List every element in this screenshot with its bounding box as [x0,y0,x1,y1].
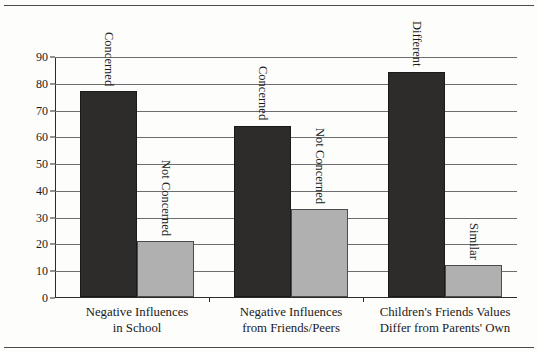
bar-value-label: Concerned [256,66,269,120]
y-axis-tick-label: 80 [36,78,48,90]
category-caption-line: from Friends/Peers [214,321,368,337]
bar-primary-2: Different [388,72,445,297]
x-axis-line [55,297,517,298]
category-caption-2: Children's Friends ValuesDiffer from Par… [368,305,522,337]
bar-value-label: Not Concerned [313,128,326,204]
y-axis-tick-label: 10 [36,265,48,277]
y-axis-tick-mark [50,244,55,245]
gridline [55,84,517,85]
y-axis-tick-label: 50 [36,158,48,170]
category-caption-0: Negative Influencesin School [60,305,214,337]
y-axis-tick-mark [50,271,55,272]
figure-container: 0102030405060708090 ConcernedNot Concern… [0,0,538,353]
category-caption-1: Negative Influencesfrom Friends/Peers [214,305,368,337]
bar-value-label: Similar [467,223,480,260]
bar-secondary-2: Similar [445,265,502,297]
y-axis-tick-label: 90 [36,51,48,63]
gridline [55,57,517,58]
x-axis-tick-mark [209,298,210,302]
y-axis-tick-mark [50,57,55,58]
category-caption-line: Differ from Parents' Own [368,321,522,337]
bar-primary-0: Concerned [80,91,137,297]
y-axis-tick-label: 0 [42,292,48,304]
y-axis-tick-mark [50,83,55,84]
y-axis-tick-mark [50,190,55,191]
figure-bottom-rule [4,347,534,348]
category-caption-line: in School [60,321,214,337]
category-caption-line: Negative Influences [60,305,214,321]
y-axis-tick-mark [50,137,55,138]
y-axis-tick-label: 30 [36,212,48,224]
x-axis-tick-mark [363,298,364,302]
y-axis-tick-label: 70 [36,105,48,117]
category-caption-line: Negative Influences [214,305,368,321]
y-axis-tick-label: 20 [36,238,48,250]
y-axis-tick-mark [50,110,55,111]
y-axis-tick-mark [50,217,55,218]
y-axis-line [55,57,56,298]
bar-secondary-1: Not Concerned [291,209,348,297]
category-caption-line: Children's Friends Values [368,305,522,321]
bar-primary-1: Concerned [234,126,291,297]
y-axis-tick-label: 40 [36,185,48,197]
bar-chart-plot-area: 0102030405060708090 ConcernedNot Concern… [55,57,517,298]
bar-value-label: Not Concerned [159,160,172,236]
figure-top-rule [4,5,534,6]
y-axis-tick-mark [50,298,55,299]
y-axis-tick-label: 60 [36,131,48,143]
bar-secondary-0: Not Concerned [137,241,194,297]
bar-value-label: Different [410,21,423,67]
y-axis-tick-mark [50,164,55,165]
bar-value-label: Concerned [102,32,115,86]
